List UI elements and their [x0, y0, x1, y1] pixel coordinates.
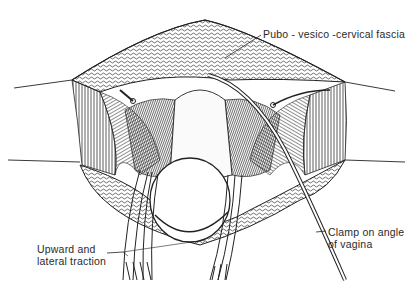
right-lower-suture — [345, 160, 405, 162]
traction-leader — [107, 252, 123, 253]
label-traction-line1: Upward and — [37, 243, 106, 255]
label-clamp-line2: of vagina — [328, 238, 404, 250]
surgical-illustration: Pubo - vesico -cervical fascia Upward an… — [0, 0, 419, 302]
label-clamp-on-angle-of-vagina: Clamp on angle of vagina — [328, 226, 404, 250]
label-traction-line2: lateral traction — [37, 255, 106, 267]
cervix-globe — [150, 158, 230, 242]
left-vaginal-wall — [72, 80, 116, 175]
label-clamp-line1: Clamp on angle — [328, 226, 404, 238]
left-upper-suture — [14, 80, 72, 88]
label-pubo-vesico-cervical-fascia: Pubo - vesico -cervical fascia — [263, 28, 405, 40]
left-lower-suture — [8, 160, 80, 162]
right-upper-suture — [345, 82, 395, 91]
label-upward-lateral-traction: Upward and lateral traction — [37, 243, 106, 267]
